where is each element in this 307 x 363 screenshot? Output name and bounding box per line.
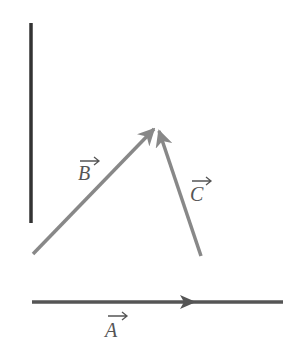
label-a: A (103, 312, 127, 341)
vector-diagram: B C A (0, 0, 307, 363)
label-c: C (190, 177, 211, 205)
svg-text:B: B (78, 162, 90, 184)
vector-b (33, 129, 154, 254)
svg-text:A: A (103, 319, 118, 341)
vector-a (32, 295, 283, 309)
label-b: B (78, 157, 99, 184)
svg-text:C: C (190, 183, 204, 205)
